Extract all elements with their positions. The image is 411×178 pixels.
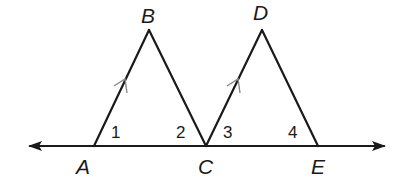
point-label-c: C xyxy=(198,155,214,178)
angle-label-4: 4 xyxy=(288,123,297,142)
angle-label-3: 3 xyxy=(223,123,232,142)
segment-cd xyxy=(206,30,262,146)
angle-label-2: 2 xyxy=(176,123,185,142)
point-label-a: A xyxy=(74,155,90,178)
angle-label-1: 1 xyxy=(111,123,120,142)
segment-ab xyxy=(94,30,149,146)
geometry-diagram: B D A C E 1 2 3 4 xyxy=(0,0,411,178)
point-label-d: D xyxy=(253,1,268,24)
point-label-e: E xyxy=(311,155,326,178)
point-label-b: B xyxy=(141,4,155,27)
